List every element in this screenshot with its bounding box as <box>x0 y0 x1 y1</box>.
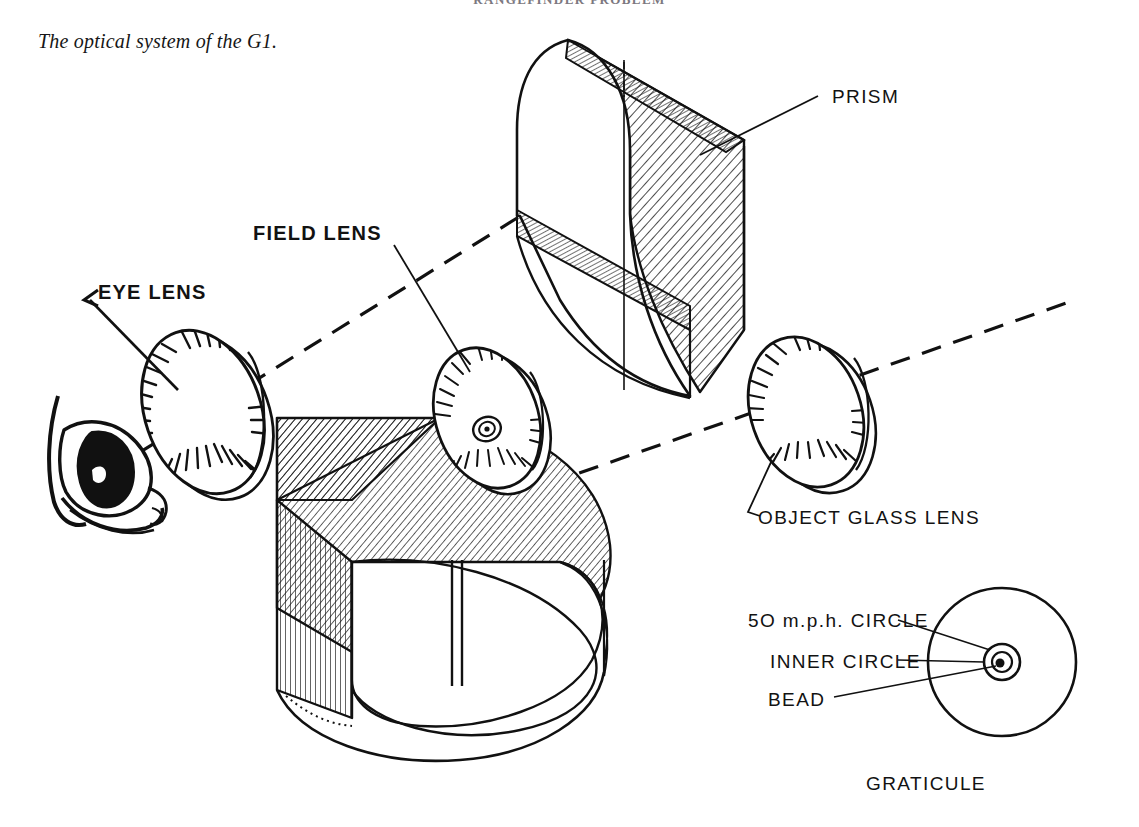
label-inner-circle: INNER CIRCLE <box>770 651 921 672</box>
graticule <box>928 588 1076 736</box>
label-graticule-caption: GRATICULE <box>866 773 986 794</box>
label-object-glass-lens: OBJECT GLASS LENS <box>758 507 980 528</box>
label-bead: BEAD <box>768 689 825 710</box>
upper-prism <box>517 40 744 398</box>
label-prism: PRISM <box>832 86 899 107</box>
optical-system-figure: PRISM FIELD LENS EYE LENS OBJECT GLASS L… <box>0 0 1139 827</box>
figure-page: RANGEFINDER PROBLEM The optical system o… <box>0 0 1139 827</box>
label-mph-circle: 5O m.p.h. CIRCLE <box>748 610 929 631</box>
label-field-lens: FIELD LENS <box>253 222 382 244</box>
leader-field-lens <box>394 245 470 372</box>
object-glass-lens <box>729 321 895 508</box>
label-eye-lens: EYE LENS <box>98 281 207 303</box>
graticule-bead <box>996 659 1005 668</box>
